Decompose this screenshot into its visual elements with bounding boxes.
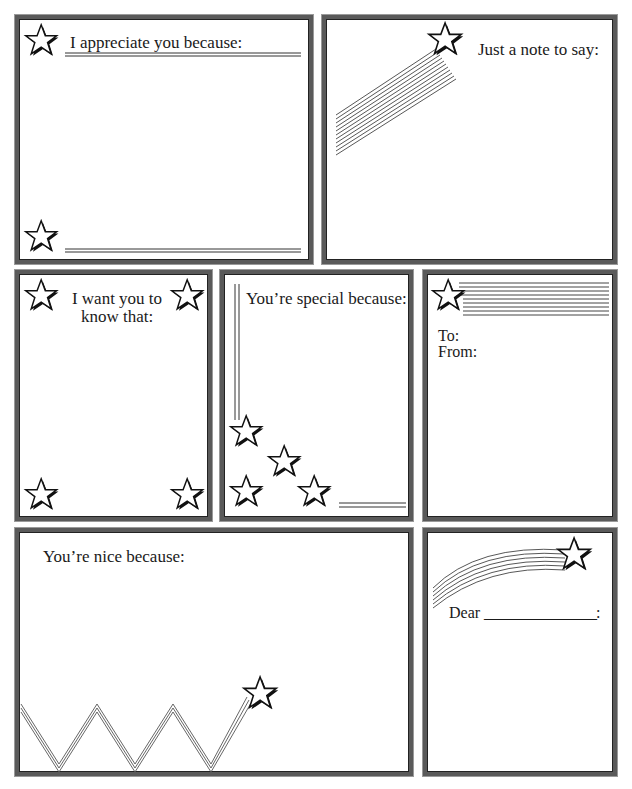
curved-shooting-star-art [427,532,621,780]
star-icon [231,416,264,447]
dear-blank[interactable]: ________________ [484,604,596,621]
star-icon [26,479,59,510]
special-stars-art [224,274,417,525]
zigzag-star-art [19,532,417,780]
star-icon [26,221,59,252]
star-icon [244,677,278,709]
card-heading: Just a note to say: [478,41,599,59]
card-heading: You’re special because: [246,290,407,308]
card-appreciate: I appreciate you because: [15,15,313,264]
star-icon [299,476,332,507]
star-icon [26,25,59,56]
from-label: From: [438,343,477,361]
card-heading: I want you to know that: [64,290,170,326]
card-heading: I appreciate you because: [70,34,242,52]
card-to-from: To: From: [423,270,617,521]
star-icon [172,479,205,510]
star-icon [433,280,466,311]
card-appreciate-art [19,19,317,268]
card-heading-line2: know that: [64,308,170,326]
dear-colon: : [596,604,600,621]
dear-label: Dear [449,604,480,621]
striped-star-art [427,274,621,525]
star-icon [172,280,205,311]
card-special: You’re special because: [220,270,413,521]
card-nice: You’re nice because: [15,528,413,776]
star-icon [26,280,59,311]
card-heading: You’re nice because: [43,548,185,566]
card-want-you-to-know: I want you to know that: [15,270,212,521]
star-icon [231,476,264,507]
card-heading-line1: I want you to [64,290,170,308]
dear-line: Dear ________________: [449,604,601,622]
star-icon [269,446,302,477]
card-dear: Dear ________________: [423,528,617,776]
card-just-a-note: Just a note to say: [322,15,617,264]
